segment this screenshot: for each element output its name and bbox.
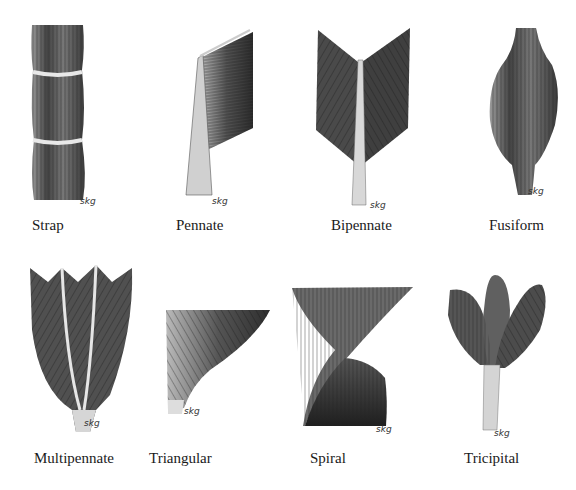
- tricipital-muscle-drawing: [448, 275, 546, 430]
- artist-signature: skg: [528, 186, 544, 196]
- fusiform-muscle-drawing: [490, 28, 558, 195]
- label-triangular: Triangular: [149, 450, 212, 467]
- artist-signature: skg: [84, 418, 100, 428]
- label-pennate: Pennate: [176, 217, 223, 234]
- artist-signature: skg: [80, 196, 96, 206]
- artist-signature: skg: [184, 406, 200, 416]
- bipennate-muscle-drawing: [316, 28, 410, 205]
- label-bipennate: Bipennate: [331, 217, 392, 234]
- label-tricipital: Tricipital: [464, 450, 519, 467]
- artist-signature: skg: [212, 196, 228, 206]
- spiral-muscle-drawing: [292, 287, 413, 426]
- label-fusiform: Fusiform: [489, 217, 544, 234]
- triangular-muscle-drawing: [166, 310, 270, 414]
- multipennate-muscle-drawing: [30, 265, 132, 432]
- artist-signature: skg: [376, 424, 392, 434]
- muscle-shapes-illustration: [0, 0, 576, 490]
- artist-signature: skg: [494, 428, 510, 438]
- pennate-muscle-drawing: [186, 30, 253, 195]
- label-spiral: Spiral: [310, 450, 346, 467]
- strap-muscle-drawing: [31, 25, 85, 200]
- artist-signature: skg: [370, 200, 386, 210]
- label-strap: Strap: [32, 217, 64, 234]
- label-multipennate: Multipennate: [34, 450, 114, 467]
